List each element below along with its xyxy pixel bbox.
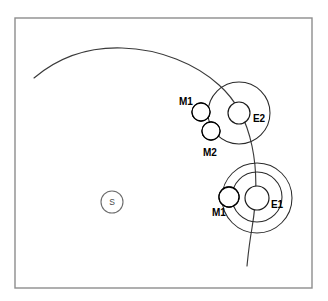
planet-e1: [245, 186, 269, 210]
moon-e2-m1-ring: [192, 103, 210, 121]
star-s-label: S: [109, 197, 115, 207]
moon-e2-m2-ring: [202, 122, 220, 140]
star-s: S: [101, 191, 123, 213]
moon-e1-m1-ring: [219, 187, 239, 207]
figure-frame: [15, 18, 312, 288]
moon-e1-m1-label: M1: [212, 207, 226, 218]
planet-e2-label: E2: [253, 113, 265, 124]
orbital-diagram-canvas: E2 M1 M2 E1 M1: [0, 0, 328, 301]
planet-e1-label: E1: [271, 199, 283, 210]
moon-e2-m1-label: M1: [179, 96, 193, 107]
moon-e2-m2-label: M2: [203, 147, 217, 158]
diagram-root: E2 M1 M2 E1 M1: [0, 0, 328, 301]
planet-e2: [228, 102, 250, 124]
